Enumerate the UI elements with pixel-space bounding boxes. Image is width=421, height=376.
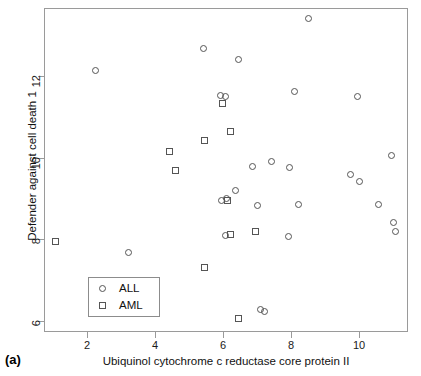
legend-box: ALL AML bbox=[88, 277, 160, 317]
x-tick-label-10: 10 bbox=[347, 339, 371, 351]
figure-panel: 681012246810 ALL AML Defender against ce… bbox=[0, 0, 421, 376]
x-tick-mark bbox=[223, 332, 224, 338]
panel-tag: (a) bbox=[5, 352, 21, 367]
x-axis-title: Ubiquinol cytochrome c reductase core pr… bbox=[44, 355, 408, 367]
x-tick-label-6: 6 bbox=[211, 339, 235, 351]
x-tick-mark bbox=[359, 332, 360, 338]
x-tick-mark bbox=[87, 332, 88, 338]
square-marker-icon bbox=[99, 302, 106, 309]
x-tick-label-2: 2 bbox=[75, 339, 99, 351]
legend-item-aml: AML bbox=[89, 297, 161, 315]
x-tick-label-8: 8 bbox=[279, 339, 303, 351]
legend-item-all: ALL bbox=[89, 280, 161, 298]
x-tick-mark bbox=[155, 332, 156, 338]
y-axis-title: Defender against cell death 1 bbox=[26, 56, 38, 276]
legend-label-aml: AML bbox=[119, 299, 143, 311]
legend-label-all: ALL bbox=[119, 282, 139, 294]
circle-marker-icon bbox=[99, 285, 106, 292]
x-tick-label-4: 4 bbox=[143, 339, 167, 351]
x-tick-mark bbox=[291, 332, 292, 338]
y-tick-label-6: 6 bbox=[30, 320, 42, 342]
